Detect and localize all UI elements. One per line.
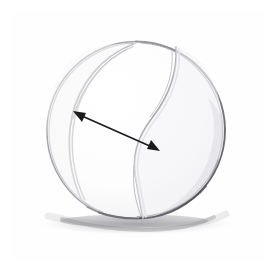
figure-root: Hand-drawn tennis ball with a double-hea… (0, 0, 277, 273)
tennis-ball (46, 41, 226, 219)
pencil-drawing-canvas (0, 0, 277, 273)
